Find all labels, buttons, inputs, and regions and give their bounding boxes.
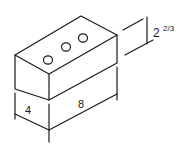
height-label-fraction: 2/3: [163, 24, 175, 33]
hole-icon: [79, 34, 88, 42]
length-label: 8: [78, 98, 84, 110]
brick-diagram: 4 8 2 2/3: [0, 0, 186, 151]
brick: [15, 16, 117, 100]
width-label: 4: [25, 104, 31, 116]
brick-holes: [44, 34, 88, 64]
brick-top-face: [15, 16, 117, 74]
hole-icon: [44, 56, 53, 64]
height-dimension: 2 2/3: [123, 17, 175, 55]
height-label-whole: 2: [153, 26, 160, 40]
length-dimension: 8: [49, 67, 117, 130]
width-dimension: 4: [15, 93, 49, 142]
hole-icon: [62, 43, 71, 51]
